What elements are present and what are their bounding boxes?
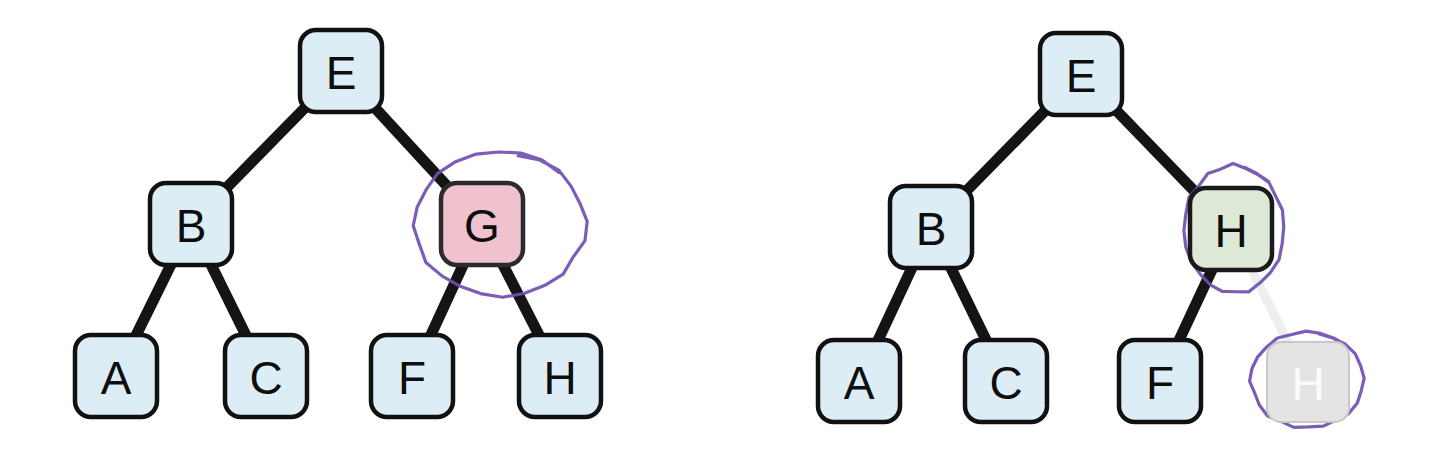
node-label: A (844, 357, 875, 409)
node-label: F (398, 352, 426, 404)
tree-node[interactable]: A (818, 340, 900, 422)
tree-node[interactable]: C (965, 340, 1047, 422)
tree-node[interactable]: H (1267, 342, 1349, 422)
node-label: H (543, 352, 576, 404)
node-label: B (916, 203, 947, 255)
tree-node[interactable]: A (75, 335, 157, 417)
node-label: E (1066, 50, 1097, 102)
node-label: B (176, 200, 207, 252)
node-label: A (101, 352, 132, 404)
tree-node[interactable]: E (300, 30, 382, 112)
node-label: G (464, 200, 500, 252)
tree-node[interactable]: H (1190, 188, 1272, 270)
nodes-layer: EBGACFHEBHACFH (75, 30, 1349, 422)
tree-node[interactable]: C (225, 335, 307, 417)
node-label: H (1291, 358, 1324, 410)
node-label: H (1214, 205, 1247, 257)
node-label: E (326, 47, 357, 99)
tree-node[interactable]: B (150, 183, 232, 265)
node-label: F (1146, 357, 1174, 409)
tree-node[interactable]: B (890, 186, 972, 268)
tree-node[interactable]: F (371, 335, 453, 417)
tree-node[interactable]: G (441, 183, 523, 265)
tree-diagram: EBGACFHEBHACFH (0, 0, 1452, 455)
tree-node[interactable]: H (519, 335, 601, 417)
tree-node[interactable]: E (1040, 33, 1122, 115)
node-label: C (249, 352, 282, 404)
tree-node[interactable]: F (1119, 340, 1201, 422)
diagram-canvas: EBGACFHEBHACFH (0, 0, 1452, 455)
node-label: C (989, 357, 1022, 409)
